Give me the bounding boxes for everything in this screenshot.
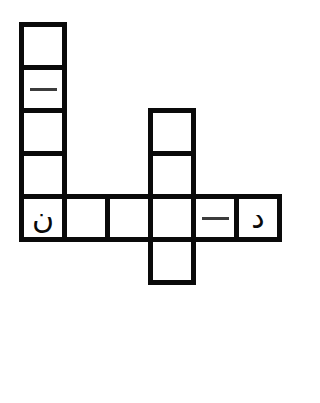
crossword-cell-letter: د [251,203,264,233]
crossword-grid: ند [0,0,320,403]
crossword-cell[interactable] [148,151,196,199]
crossword-cell[interactable] [62,194,110,242]
crossword-cell[interactable] [19,151,67,199]
crossword-cell-dash [30,88,57,91]
crossword-cell[interactable] [148,237,196,285]
crossword-cell[interactable] [19,65,67,113]
crossword-cell-dash [202,217,229,220]
crossword-cell[interactable] [105,194,153,242]
crossword-cell[interactable] [19,22,67,70]
crossword-cell[interactable] [148,194,196,242]
crossword-cell[interactable] [148,108,196,156]
crossword-cell[interactable] [191,194,239,242]
crossword-cell[interactable]: د [234,194,282,242]
crossword-cell[interactable]: ن [19,194,67,242]
crossword-cell[interactable] [19,108,67,156]
crossword-cell-letter: ن [32,203,54,233]
